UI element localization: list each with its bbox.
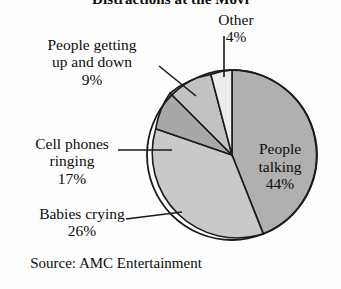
- callout-people-getting-up: People getting up and down 9%: [22, 36, 162, 88]
- talking-pct: 44%: [266, 175, 294, 192]
- callout-other-name: Other: [218, 11, 253, 28]
- callout-getting-up-line1: People getting: [47, 36, 136, 53]
- talking-line2: talking: [258, 158, 301, 175]
- callout-cellphones-line1: Cell phones: [35, 135, 109, 152]
- source-note: Source: AMC Entertainment: [2, 255, 230, 272]
- callout-cell-phones-ringing: Cell phones ringing 17%: [6, 135, 138, 187]
- callout-babies-pct: 26%: [12, 222, 152, 239]
- pie-chart-figure: Distractions at the Movi Other 4% People…: [0, 0, 341, 289]
- callout-getting-up-pct: 9%: [22, 71, 162, 88]
- callout-other-pct: 4%: [196, 28, 276, 45]
- callout-babies-line1: Babies crying: [39, 205, 125, 222]
- callout-babies-crying: Babies crying 26%: [12, 205, 152, 240]
- callout-other: Other 4%: [196, 11, 276, 46]
- callout-cellphones-pct: 17%: [6, 170, 138, 187]
- callout-cellphones-line2: ringing: [50, 152, 95, 169]
- slice-label-people-talking: People talking 44%: [238, 140, 322, 193]
- callout-getting-up-line2: up and down: [52, 53, 132, 70]
- talking-line1: People: [259, 140, 301, 157]
